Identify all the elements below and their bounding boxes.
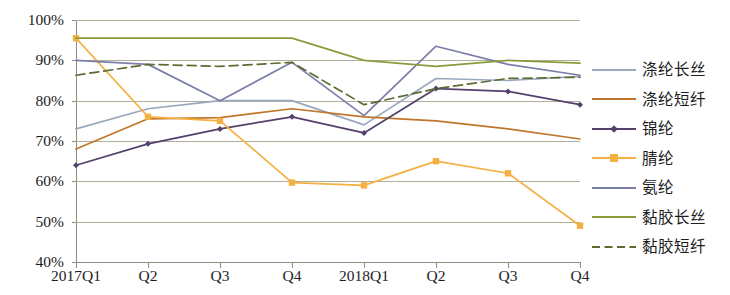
x-axis-line [76,262,580,263]
x-axis-tick-label: Q3 [211,268,230,284]
legend-swatch-icon [592,240,636,254]
legend-swatch-icon [592,122,636,136]
legend-swatch-icon [592,210,636,224]
legend-item-涤纶短纤[interactable]: 涤纶短纤 [592,85,730,115]
data-point-marker-diamond [505,88,511,94]
series-line [76,89,580,166]
legend-item-黏胶短纤[interactable]: 黏胶短纤 [592,232,730,262]
legend-item-氨纶[interactable]: 氨纶 [592,173,730,203]
y-axis-tick-label: 100% [8,12,64,28]
x-axis-tick-label: Q4 [571,268,590,284]
series-layer [76,20,580,262]
legend-item-label: 涤纶短纤 [642,92,706,108]
legend-item-label: 黏胶长丝 [642,210,706,226]
series-锦纶 [73,86,583,169]
x-axis-tick-label: Q3 [499,268,518,284]
series-line [76,38,580,66]
legend-swatch-icon [592,151,636,165]
legend-item-锦纶[interactable]: 锦纶 [592,114,730,144]
legend-item-涤纶长丝[interactable]: 涤纶长丝 [592,55,730,85]
x-axis-tick-label: 2017Q1 [51,268,101,284]
legend-item-label: 氨纶 [642,180,674,196]
data-point-marker-diamond [217,126,223,132]
legend-item-label: 黏胶短纤 [642,239,706,255]
data-point-marker-square [361,182,367,188]
y-axis-tick-label: 50% [8,214,64,230]
data-point-marker-square [433,158,439,164]
series-黏胶短纤 [76,62,580,104]
x-axis-tick-label: 2018Q1 [339,268,389,284]
data-point-marker-square [289,179,295,185]
data-point-marker-diamond [289,114,295,120]
data-point-marker-square [505,170,511,176]
plot-area [76,20,580,262]
y-axis-tick-label: 80% [8,93,64,109]
x-axis-tick-label: Q4 [283,268,302,284]
legend-item-label: 锦纶 [642,121,674,137]
legend-item-黏胶长丝[interactable]: 黏胶长丝 [592,203,730,233]
data-point-marker-diamond [73,162,79,168]
series-line [76,62,580,104]
y-axis-tick-label: 90% [8,53,64,69]
line-chart: 100%90%80%70%60%50%40% 2017Q1Q2Q3Q42018Q… [0,0,730,295]
legend-swatch-icon [592,181,636,195]
data-point-marker-square [217,118,223,124]
data-point-marker-diamond [577,102,583,108]
y-axis-tick-label: 60% [8,174,64,190]
x-axis-tick-label: Q2 [427,268,446,284]
series-黏胶长丝 [76,38,580,66]
x-axis-tick-label: Q2 [139,268,158,284]
legend-item-腈纶[interactable]: 腈纶 [592,144,730,174]
legend-swatch-icon [592,92,636,106]
data-point-marker-diamond [145,141,151,147]
legend-item-label: 腈纶 [642,151,674,167]
legend-swatch-icon [592,63,636,77]
y-axis-tick-label: 70% [8,133,64,149]
data-point-marker-square [145,114,151,120]
legend-item-label: 涤纶长丝 [642,62,706,78]
chart-legend: 涤纶长丝涤纶短纤锦纶腈纶氨纶黏胶长丝黏胶短纤 [592,55,730,262]
data-point-marker-square [577,223,583,229]
